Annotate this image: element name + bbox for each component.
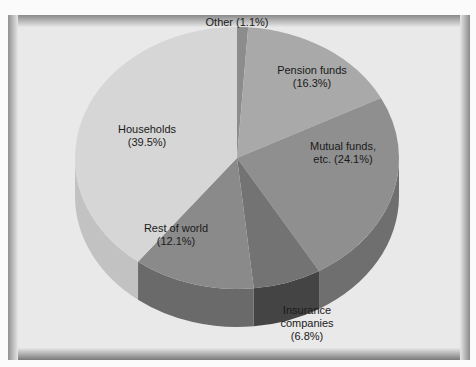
label-other: Other (1.1%) xyxy=(206,16,269,29)
pie-slices xyxy=(75,27,399,327)
frame-bevel-left xyxy=(8,15,18,360)
label-households: Households (39.5%) xyxy=(118,123,176,149)
label-rest-of-world: Rest of world (12.1%) xyxy=(144,222,208,248)
label-mutual-funds: Mutual funds, etc. (24.1%) xyxy=(310,140,376,166)
label-pension-funds: Pension funds (16.3%) xyxy=(277,64,347,90)
pie-chart xyxy=(8,15,470,360)
label-insurance-companies: Insurance companies (6.8%) xyxy=(280,304,333,343)
frame-bevel-bottom xyxy=(8,348,470,360)
chart-frame: Other (1.1%) Pension funds (16.3%) Mutua… xyxy=(8,15,470,360)
frame-bevel-right xyxy=(460,15,470,360)
